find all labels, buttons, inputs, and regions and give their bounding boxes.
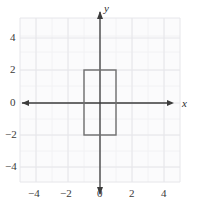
x-tick-label-0: 0 [97, 188, 103, 199]
y-tick-label-2: 2 [10, 64, 16, 75]
x-tick-label-minus-4: −4 [28, 188, 40, 199]
coordinate-plane-figure: 4 2 0 −2 −4 −4 −2 0 2 4 y x [0, 0, 198, 207]
y-tick-label-4: 4 [10, 32, 16, 43]
x-tick-label-minus-2: −2 [60, 188, 72, 199]
x-tick-label-4: 4 [161, 188, 167, 199]
y-axis-top-arrow [97, 11, 103, 19]
graph-canvas [0, 0, 198, 207]
y-axis-label: y [104, 3, 109, 14]
y-tick-label-minus-4: −4 [5, 161, 17, 172]
x-tick-label-2: 2 [129, 188, 135, 199]
x-axis-label: x [182, 98, 187, 109]
y-tick-label-0: 0 [10, 97, 16, 108]
y-tick-label-minus-2: −2 [5, 129, 17, 140]
